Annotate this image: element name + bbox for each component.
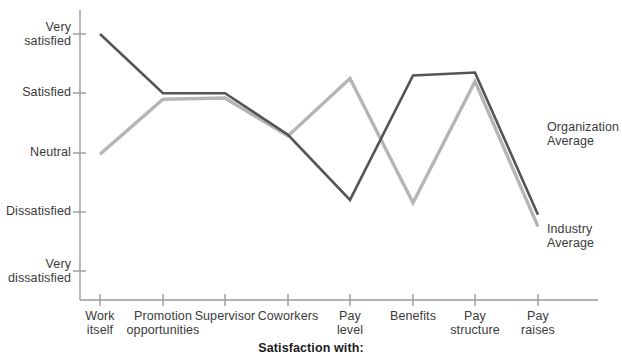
series-line-industry-average [100, 78, 538, 226]
satisfaction-line-chart: Very satisfied Satisfied Neutral Dissati… [0, 0, 622, 361]
ytick-dissatisfied-line1: Dissatisfied [0, 205, 71, 219]
ytick-very-satisfied-line1: Very [0, 21, 71, 35]
xtick-pay-raises-line1: Pay [493, 309, 583, 323]
ytick-very-dissatisfied-line2: dissatisfied [0, 272, 71, 286]
legend-industry-line1: Industry [547, 222, 594, 236]
xtick-pay-raises-line2: raises [493, 323, 583, 337]
ytick-satisfied-line1: Satisfied [0, 86, 71, 100]
ytick-label-satisfied: Satisfied [0, 86, 71, 100]
ytick-label-neutral: Neutral [0, 146, 71, 160]
ytick-very-satisfied-line2: satisfied [0, 35, 71, 49]
series-line-organization-average [100, 34, 538, 215]
xtick-promotion-line2: opportunities [108, 323, 218, 337]
ytick-label-very-dissatisfied: Very dissatisfied [0, 258, 71, 285]
legend-industry-line2: Average [547, 236, 594, 250]
legend-industry-average: Industry Average [547, 222, 594, 250]
ytick-label-very-satisfied: Very satisfied [0, 21, 71, 48]
x-axis-title: Satisfaction with: [0, 341, 622, 355]
ytick-very-dissatisfied-line1: Very [0, 258, 71, 272]
legend-organization-line2: Average [547, 134, 619, 148]
ytick-neutral-line1: Neutral [0, 146, 71, 160]
plot-area [0, 0, 622, 361]
xtick-pay-level-line2: level [305, 323, 395, 337]
legend-organization-line1: Organization [547, 120, 619, 134]
legend-organization-average: Organization Average [547, 120, 619, 148]
ytick-label-dissatisfied: Dissatisfied [0, 205, 71, 219]
xtick-label-pay-raises: Pay raises [493, 309, 583, 337]
